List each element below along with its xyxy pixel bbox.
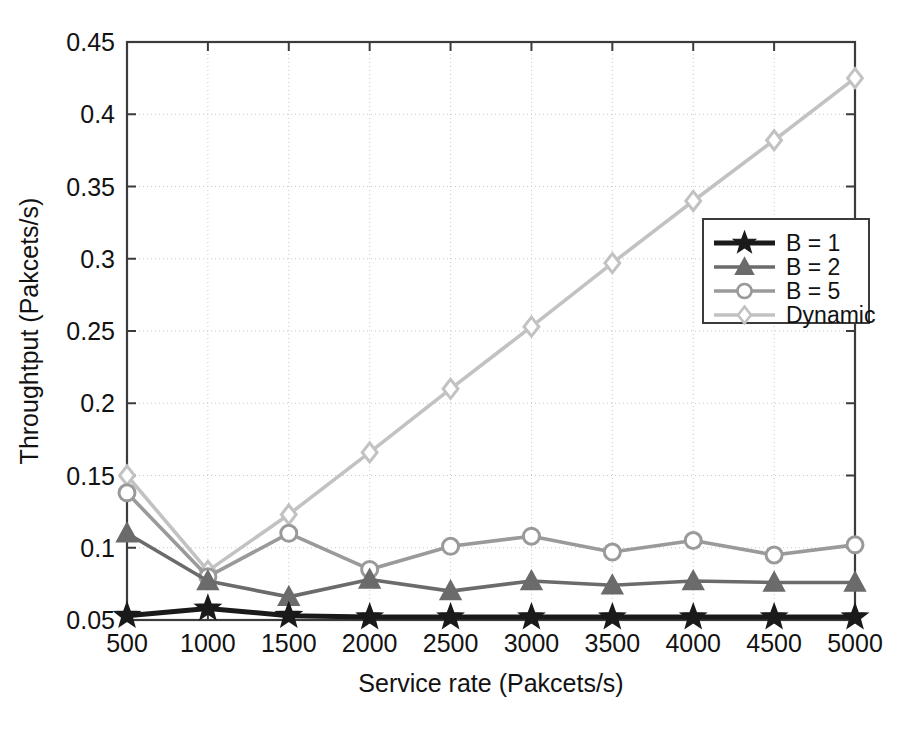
y-tick-label: 0.4 [80, 100, 115, 128]
x-tick-label: 4500 [746, 629, 802, 657]
x-tick-label: 5000 [827, 629, 883, 657]
x-tick-label: 1000 [180, 629, 236, 657]
y-tick-label: 0.2 [80, 389, 115, 417]
y-tick-label: 0.05 [66, 606, 115, 634]
throughput-vs-service-rate-chart: 500100015002000250030003500400045005000 … [0, 0, 922, 732]
legend-label: B = 2 [786, 254, 840, 280]
y-tick-label: 0.25 [66, 317, 115, 345]
x-tick-label: 3000 [504, 629, 560, 657]
legend-label: Dynamic [786, 302, 875, 328]
x-tick-label: 3500 [585, 629, 641, 657]
legend-label: B = 1 [786, 230, 840, 256]
x-tick-label: 4000 [665, 629, 721, 657]
chart-background [0, 0, 922, 732]
x-axis-title: Service rate (Pakcets/s) [358, 669, 623, 697]
y-tick-label: 0.1 [80, 534, 115, 562]
y-axis-title: Throughtput (Pakcets/s) [15, 198, 43, 465]
y-tick-label: 0.45 [66, 28, 115, 56]
y-tick-label: 0.35 [66, 173, 115, 201]
legend-label: B = 5 [786, 278, 840, 304]
y-tick-label: 0.3 [80, 245, 115, 273]
x-tick-label: 2000 [342, 629, 398, 657]
x-tick-label: 1500 [261, 629, 317, 657]
chart-legend: B = 1B = 2B = 5Dynamic [703, 219, 875, 328]
x-tick-label: 2500 [423, 629, 479, 657]
chart-figure: 500100015002000250030003500400045005000 … [0, 0, 922, 732]
y-tick-label: 0.15 [66, 462, 115, 490]
